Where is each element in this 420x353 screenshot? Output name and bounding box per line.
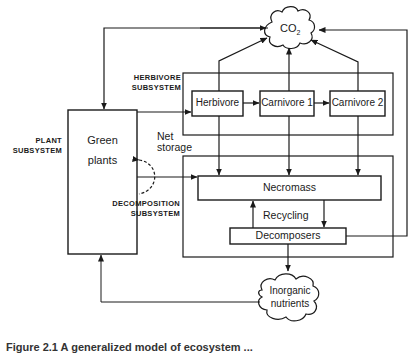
figure-caption: Figure 2.1 A generalized model of ecosys… bbox=[6, 341, 253, 353]
green-plants-line2: plants bbox=[68, 150, 137, 170]
decomposers-label: Decomposers bbox=[230, 229, 346, 241]
herbivore-subsystem-label: HERBIVORE SUBSYSTEM bbox=[125, 73, 181, 93]
decomposition-subsystem-line1: DECOMPOSITION bbox=[110, 199, 180, 209]
plant-subsystem-line2: SUBSYSTEM bbox=[6, 146, 62, 156]
nutrients-to-plants-arrow bbox=[101, 255, 260, 302]
inorganic-nutrients-label: Inorganic nutrients bbox=[268, 284, 312, 310]
co2-subscript: 2 bbox=[297, 29, 301, 36]
decomposers-to-co2-arrow bbox=[319, 30, 407, 236]
carnivore1-label: Carnivore 1 bbox=[260, 97, 314, 108]
inorganic-line2: nutrients bbox=[268, 297, 312, 310]
co2-text: CO bbox=[280, 22, 297, 34]
herbivore-subsystem-line1: HERBIVORE bbox=[125, 73, 181, 83]
decomposition-subsystem-label: DECOMPOSITION SUBSYSTEM bbox=[110, 199, 180, 219]
herbivore-label: Herbivore bbox=[192, 97, 243, 108]
inorganic-line1: Inorganic bbox=[268, 284, 312, 297]
green-plants-line1: Green bbox=[68, 130, 137, 150]
necromass-label: Necromass bbox=[198, 181, 381, 193]
herbivore-subsystem-line2: SUBSYSTEM bbox=[125, 83, 181, 93]
recycling-label: Recycling bbox=[263, 209, 309, 221]
carnivore2-label: Carnivore 2 bbox=[330, 97, 385, 108]
plant-subsystem-label: PLANT SUBSYSTEM bbox=[6, 136, 62, 156]
green-plants-label: Green plants bbox=[68, 130, 137, 170]
decomposition-subsystem-box bbox=[183, 156, 393, 257]
co2-label: CO2 bbox=[280, 22, 300, 36]
net-storage-label: Net storage bbox=[157, 131, 192, 153]
plant-subsystem-line1: PLANT bbox=[6, 136, 62, 146]
net-storage-line2: storage bbox=[157, 142, 192, 153]
decomposition-subsystem-line2: SUBSYSTEM bbox=[110, 209, 180, 219]
herbivore-to-co2-arrow bbox=[219, 38, 267, 91]
carnivore2-to-co2-arrow bbox=[311, 40, 358, 91]
